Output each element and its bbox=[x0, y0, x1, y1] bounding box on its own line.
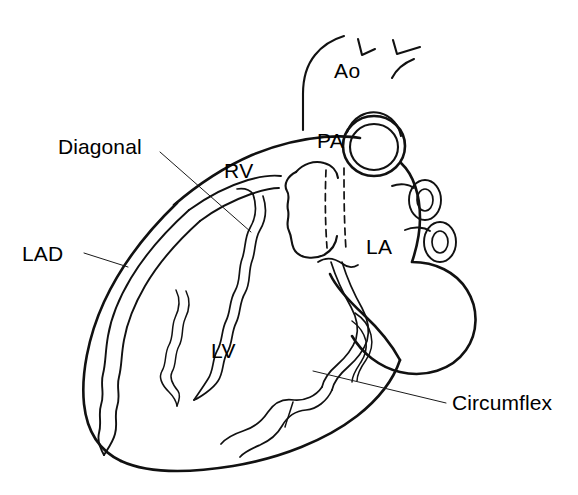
circumflex-distal-wall-outer bbox=[221, 387, 322, 444]
lad-artery-wall-outer bbox=[98, 210, 189, 455]
label-pa: PA bbox=[317, 130, 344, 151]
septal-branch-wall-right bbox=[171, 291, 189, 406]
label-circumflex: Circumflex bbox=[452, 392, 552, 413]
label-lv: LV bbox=[211, 340, 236, 361]
coronary-anatomy-figure: Diagonal LAD Circumflex Ao PA RV LA LV bbox=[0, 0, 578, 495]
right-atrial-appendage-top bbox=[296, 162, 338, 178]
label-lad: LAD bbox=[22, 243, 63, 264]
heart-diagram-svg bbox=[0, 0, 578, 495]
arch-branch-vessel-2-icon bbox=[393, 40, 420, 54]
hidden-artery-segment-right bbox=[344, 168, 346, 250]
pulmonary-vein-lower-inner-ring bbox=[432, 231, 448, 253]
arch-branch-vessel-1-icon bbox=[358, 39, 375, 55]
label-diagonal: Diagonal bbox=[58, 136, 142, 157]
diagonal-artery-wall-right bbox=[194, 196, 265, 400]
label-rv: RV bbox=[224, 160, 254, 181]
aortic-arch-outline bbox=[303, 36, 344, 130]
label-ao: Ao bbox=[334, 60, 361, 81]
label-la: LA bbox=[366, 236, 393, 257]
lad-leader-line bbox=[84, 253, 128, 267]
lad-artery-wall-inner bbox=[104, 221, 200, 455]
hidden-artery-segment-left bbox=[325, 170, 327, 248]
diagonal-artery-wall-left bbox=[194, 194, 255, 400]
pulmonary-vein-lower-outer-ring bbox=[424, 222, 456, 262]
pulmonary-vein-upper-stalk bbox=[392, 184, 414, 188]
pulmonary-artery-inner-ring bbox=[350, 124, 398, 170]
right-atrial-appendage-outline bbox=[286, 172, 337, 258]
lad-artery-proximal-lower bbox=[200, 188, 279, 221]
arch-branch-vessel-3-icon bbox=[392, 59, 414, 78]
circumflex-artery-wall-outer bbox=[322, 262, 357, 387]
right-atrial-appendage-lower-rim bbox=[318, 259, 358, 267]
left-atrium-outline bbox=[352, 163, 476, 374]
ventricular-outline-left bbox=[83, 203, 177, 461]
